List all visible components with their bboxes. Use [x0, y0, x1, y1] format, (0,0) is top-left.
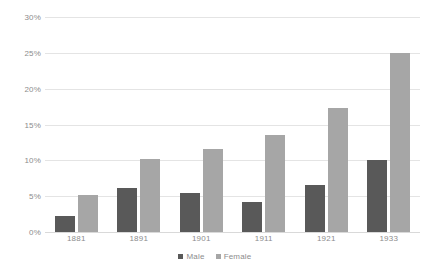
- legend-label: Female: [224, 252, 252, 261]
- y-tick-label: 25%: [24, 48, 41, 57]
- y-tick-label: 30%: [24, 13, 41, 22]
- bar-male-1933[interactable]: [367, 160, 387, 232]
- bar-group: [45, 17, 108, 232]
- bar-group: [170, 17, 233, 232]
- bar-female-1901[interactable]: [203, 149, 223, 232]
- legend-swatch-icon: [216, 254, 221, 259]
- legend-label: Male: [186, 252, 204, 261]
- x-tick-label: 1891: [108, 234, 171, 248]
- bar-group: [108, 17, 171, 232]
- bar-group: [233, 17, 296, 232]
- bar-chart: 0%5%10%15%20%25%30% 18811891190119111921…: [0, 0, 430, 271]
- axis-baseline: [45, 232, 420, 233]
- legend-item-female[interactable]: Female: [216, 252, 252, 261]
- bar-female-1911[interactable]: [265, 135, 285, 232]
- bar-female-1921[interactable]: [328, 108, 348, 232]
- legend-item-male[interactable]: Male: [178, 252, 204, 261]
- y-tick-label: 5%: [29, 192, 41, 201]
- bar-female-1933[interactable]: [390, 53, 410, 232]
- y-tick-label: 10%: [24, 156, 41, 165]
- x-tick-label: 1911: [233, 234, 296, 248]
- y-tick-label: 20%: [24, 84, 41, 93]
- bar-female-1891[interactable]: [140, 159, 160, 232]
- x-tick-label: 1901: [170, 234, 233, 248]
- x-axis: 188118911901191119211933: [45, 234, 420, 248]
- bar-male-1901[interactable]: [180, 193, 200, 232]
- bar-male-1881[interactable]: [55, 216, 75, 232]
- y-tick-label: 15%: [24, 120, 41, 129]
- legend-swatch-icon: [178, 254, 183, 259]
- bars-layer: [45, 17, 420, 232]
- y-axis: 0%5%10%15%20%25%30%: [0, 17, 41, 232]
- y-tick-label: 0%: [29, 228, 41, 237]
- legend: MaleFemale: [0, 252, 430, 261]
- bar-male-1891[interactable]: [117, 188, 137, 232]
- x-tick-label: 1881: [45, 234, 108, 248]
- bar-group: [295, 17, 358, 232]
- bar-male-1911[interactable]: [242, 202, 262, 232]
- x-tick-label: 1921: [295, 234, 358, 248]
- bar-female-1881[interactable]: [78, 195, 98, 232]
- x-tick-label: 1933: [358, 234, 421, 248]
- bar-male-1921[interactable]: [305, 185, 325, 232]
- bar-group: [358, 17, 421, 232]
